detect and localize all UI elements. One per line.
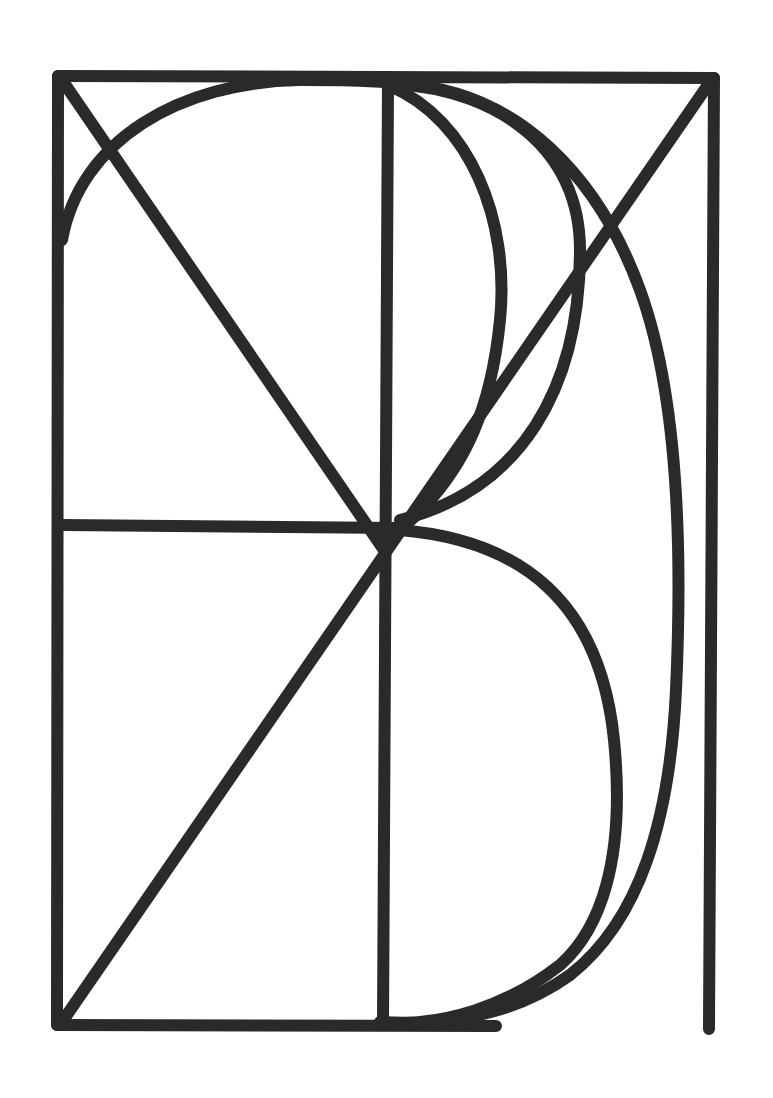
outer-frame-right xyxy=(709,78,714,1029)
letter-b-construction-diagram xyxy=(0,0,773,1098)
center-vertical xyxy=(383,82,388,1024)
middle-horizontal xyxy=(62,525,400,528)
lower-bowl xyxy=(400,530,617,1022)
outer-frame-left xyxy=(57,76,58,1025)
large-d-curve xyxy=(380,84,679,1023)
